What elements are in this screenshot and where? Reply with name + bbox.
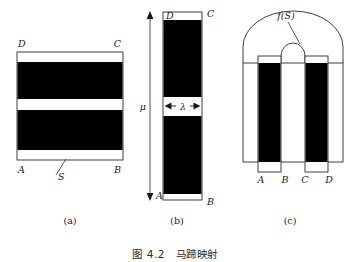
- panel-c-label-B: B: [281, 174, 289, 185]
- panel-a-upper-black-band: [18, 62, 123, 99]
- panel-b-label-A: A: [155, 190, 163, 201]
- panel-c-leader-line: [288, 22, 300, 44]
- panel-c-label-fS: f(S): [276, 10, 295, 21]
- panel-b-label-C: C: [207, 8, 215, 19]
- panel-c-right-black-leg: [306, 63, 328, 162]
- panel-caption-a: (a): [63, 215, 76, 226]
- panel-b-label-mu: μ: [140, 101, 146, 112]
- panel-c: f(S) A B C D: [243, 10, 343, 185]
- panel-a-label-S: S: [58, 171, 65, 182]
- panel-b-mu-dimension: μ: [140, 11, 154, 201]
- panel-b-upper-black-band: [164, 20, 202, 97]
- panel-b-lower-black-band: [164, 116, 202, 194]
- panel-a-label-B: B: [113, 164, 121, 175]
- panel-c-label-A: A: [257, 174, 265, 185]
- panel-c-left-black-leg: [259, 63, 281, 162]
- panel-b: μ λ D C A B: [140, 8, 215, 207]
- panel-b-label-B: B: [206, 196, 214, 207]
- panel-b-mu-arrow-top: [147, 11, 154, 19]
- panel-b-label-lambda: λ: [179, 101, 186, 112]
- panel-b-mu-arrow-bottom: [147, 193, 154, 201]
- panel-b-label-D: D: [165, 10, 174, 21]
- panel-caption-b: (b): [170, 215, 184, 226]
- panel-c-label-D: D: [324, 174, 333, 185]
- panel-c-inner-arc: [281, 43, 305, 63]
- figure-caption: 图 4.2 马蹄映射: [0, 246, 350, 262]
- panel-a-lower-black-band: [18, 110, 123, 150]
- figure-root: D C A B S μ: [0, 0, 350, 262]
- panel-caption-c: (c): [284, 215, 297, 226]
- panel-a-label-D: D: [17, 38, 26, 49]
- panel-a-label-A: A: [17, 164, 25, 175]
- horseshoe-map-figure: D C A B S μ: [0, 0, 350, 262]
- panel-a-label-C: C: [114, 38, 122, 49]
- panel-a: D C A B S: [17, 38, 123, 182]
- panel-c-label-C: C: [301, 174, 309, 185]
